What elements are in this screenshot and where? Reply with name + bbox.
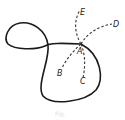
closed-curve: [6, 23, 100, 102]
label-e: E: [80, 8, 86, 17]
label-c: C: [80, 77, 86, 86]
label-b: B: [57, 69, 63, 78]
dashed-path-a-d: [81, 24, 112, 44]
figure-caption: Fig.: [55, 110, 65, 118]
label-d: D: [113, 20, 119, 29]
diagram-figure: A B C D E Fig.: [0, 0, 125, 120]
label-a: A: [76, 47, 82, 56]
